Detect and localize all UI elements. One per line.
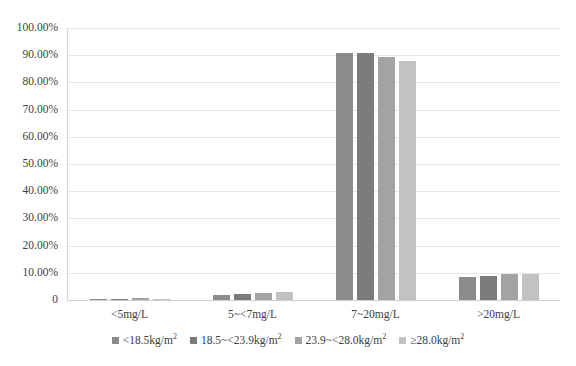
y-axis-tick-label: 20.00% (23, 240, 58, 252)
x-axis-tick-label: 5~<7mg/L (191, 303, 314, 325)
bar[interactable] (480, 276, 497, 300)
bar-group-bars (437, 28, 560, 300)
bar-group (314, 28, 437, 300)
bar-groups (68, 28, 560, 300)
legend-label: 18.5~<23.9kg/m2 (201, 335, 282, 347)
bar[interactable] (213, 295, 230, 300)
y-axis-tick-label: 50.00% (23, 158, 58, 170)
axis-baseline (68, 300, 560, 301)
y-axis-tick-label: 10.00% (23, 267, 58, 279)
bar[interactable] (522, 274, 539, 300)
y-axis-tick-label: 40.00% (23, 185, 58, 197)
y-axis-tick-label: 70.00% (23, 104, 58, 116)
y-axis: 100.00%90.00%80.00%70.00%60.00%50.00%40.… (0, 28, 64, 300)
bar-group-bars (68, 28, 191, 300)
plot-area (68, 28, 560, 300)
bar[interactable] (336, 53, 353, 300)
legend-label: 23.9~<28.0kg/m2 (306, 335, 387, 347)
bar-chart: 100.00%90.00%80.00%70.00%60.00%50.00%40.… (0, 0, 576, 366)
legend-item[interactable]: 23.9~<28.0kg/m2 (295, 335, 387, 347)
legend-swatch-icon (112, 337, 119, 344)
legend-swatch-icon (295, 337, 302, 344)
legend-item[interactable]: <18.5kg/m2 (112, 335, 177, 347)
y-axis-tick-label: 90.00% (23, 49, 58, 61)
legend: <18.5kg/m218.5~<23.9kg/m223.9~<28.0kg/m2… (0, 335, 576, 347)
legend-swatch-icon (190, 337, 197, 344)
y-axis-tick-label: 80.00% (23, 77, 58, 89)
legend-item[interactable]: 18.5~<23.9kg/m2 (190, 335, 282, 347)
bar[interactable] (153, 299, 170, 300)
legend-swatch-icon (399, 337, 406, 344)
bar-group (68, 28, 191, 300)
bar[interactable] (378, 57, 395, 300)
bar-group (437, 28, 560, 300)
bar-group-bars (191, 28, 314, 300)
bar[interactable] (90, 299, 107, 300)
legend-label: <18.5kg/m2 (123, 335, 177, 347)
bar[interactable] (459, 277, 476, 300)
bar[interactable] (132, 298, 149, 300)
x-axis-tick-label: 7~20mg/L (314, 303, 437, 325)
bar[interactable] (234, 294, 251, 300)
bar[interactable] (357, 53, 374, 300)
bar-group-bars (314, 28, 437, 300)
x-axis-tick-label: <5mg/L (68, 303, 191, 325)
bar[interactable] (255, 293, 272, 300)
x-axis-tick-label: >20mg/L (437, 303, 560, 325)
y-axis-tick-label: 30.00% (23, 213, 58, 225)
y-axis-tick-label: 0 (52, 294, 58, 306)
y-axis-tick-label: 60.00% (23, 131, 58, 143)
x-axis: <5mg/L5~<7mg/L7~20mg/L>20mg/L (68, 303, 560, 325)
bar-group (191, 28, 314, 300)
bar[interactable] (276, 292, 293, 300)
bar[interactable] (111, 299, 128, 300)
bar[interactable] (399, 61, 416, 300)
legend-item[interactable]: ≥28.0kg/m2 (399, 335, 464, 347)
bar[interactable] (501, 274, 518, 300)
y-axis-tick-label: 100.00% (17, 22, 58, 34)
legend-label: ≥28.0kg/m2 (410, 335, 464, 347)
